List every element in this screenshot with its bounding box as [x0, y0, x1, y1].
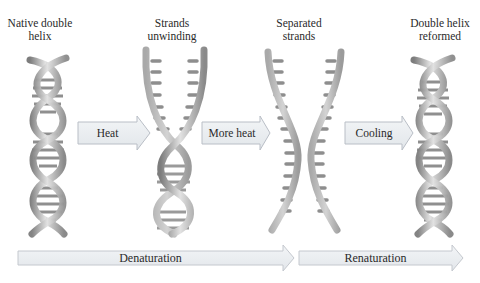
renaturation-label: Renaturation [299, 251, 452, 265]
unwinding-strands [146, 50, 204, 234]
diagram-artwork [0, 0, 480, 283]
reformed-double-helix [414, 58, 452, 234]
heat-label: Heat [78, 126, 137, 140]
native-double-helix [30, 58, 66, 234]
denaturation-label: Denaturation [18, 251, 283, 265]
cooling-label: Cooling [345, 126, 403, 140]
separated-strands [268, 52, 341, 230]
more-heat-label: More heat [202, 126, 262, 140]
